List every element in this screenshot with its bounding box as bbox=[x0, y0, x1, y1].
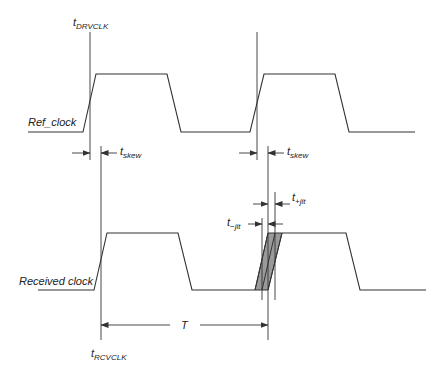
t-skew-label: tskew bbox=[120, 145, 143, 160]
ref-clock-waveform bbox=[28, 74, 415, 132]
t-skew-label-2: tskew bbox=[287, 145, 310, 160]
timing-diagram: Ref_clock Received clock tDRVCLK tRCVCLK… bbox=[0, 0, 447, 375]
t-drvclk-label: tDRVCLK bbox=[73, 16, 109, 31]
received-clock-label: Received clock bbox=[19, 275, 93, 287]
t-plus-jit-label: t+jit bbox=[292, 191, 306, 206]
t-rcvclk-label: tRCVCLK bbox=[91, 347, 127, 362]
period-label: T bbox=[181, 319, 189, 331]
received-clock-waveform-2 bbox=[282, 233, 426, 290]
jitter-region bbox=[255, 233, 282, 290]
ref-clock-label: Ref_clock bbox=[28, 116, 77, 128]
t-minus-jit-label: t−jit bbox=[227, 216, 241, 231]
